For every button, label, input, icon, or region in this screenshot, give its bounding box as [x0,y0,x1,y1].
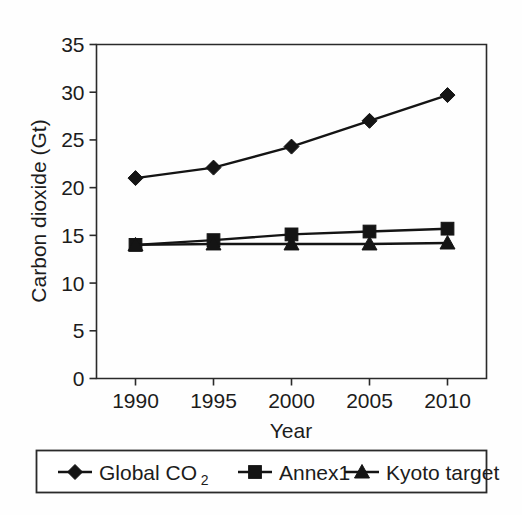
series-line [136,95,448,178]
y-tick-label: 30 [61,81,84,104]
y-tick-label: 0 [73,367,85,390]
x-tick-label: 1995 [190,389,237,412]
diamond-marker [440,88,455,103]
legend-label-subscript: 2 [201,472,209,488]
y-axis-tick-labels: 05101520253035 [61,33,84,390]
plot-frame [97,45,487,379]
x-axis-title: Year [270,419,312,442]
square-marker [441,222,454,235]
legend-label: Kyoto target [386,461,499,484]
y-tick-label: 5 [73,319,85,342]
y-tick-label: 35 [61,33,84,56]
diamond-marker [284,139,299,154]
y-axis-ticks [90,45,97,379]
series-group [128,88,455,252]
y-tick-label: 15 [61,224,84,247]
chart-figure: 05101520253035 19901995200020052010 Carb… [0,0,522,515]
x-tick-label: 2000 [268,389,315,412]
y-tick-label: 20 [61,176,84,199]
diamond-marker [206,160,221,175]
x-tick-label: 1990 [112,389,159,412]
y-tick-label: 10 [61,272,84,295]
x-tick-label: 2010 [424,389,471,412]
legend-square-marker [249,466,262,479]
legend-label: Global CO [99,461,197,484]
series-3 [128,235,455,250]
line-chart: 05101520253035 19901995200020052010 Carb… [0,0,522,515]
legend-label: Annex1 [279,461,350,484]
x-tick-label: 2005 [346,389,393,412]
diamond-marker [362,113,377,128]
x-axis-tick-labels: 19901995200020052010 [112,389,471,412]
series-1 [128,88,455,186]
y-axis-title: Carbon dioxide (Gt) [27,119,50,302]
y-tick-label: 25 [61,128,84,151]
diamond-marker [128,171,143,186]
x-axis-ticks [136,379,448,386]
legend: Global CO2Annex1Kyoto target [37,451,500,493]
